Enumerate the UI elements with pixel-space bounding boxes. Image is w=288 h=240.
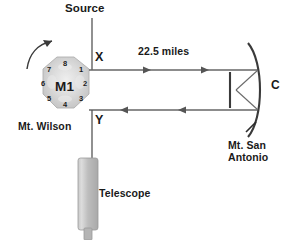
octagon-face-2: 2 [80, 80, 90, 88]
octagon-face-8: 8 [60, 60, 70, 68]
michelson-experiment-diagram: Source 22.5 miles X Y C M1 Mt. Wilson Mt… [0, 0, 288, 240]
telescope-icon [78, 158, 98, 240]
distance-label: 22.5 miles [138, 46, 189, 58]
arrowhead-icon [120, 107, 128, 114]
converging-rays [236, 70, 258, 110]
source-label: Source [65, 2, 105, 15]
arrowhead-icon [201, 67, 209, 74]
octagon-face-4: 4 [60, 101, 70, 109]
mirror-c-label: C [271, 79, 280, 92]
returning-beam [89, 107, 258, 114]
point-y-label: Y [95, 113, 103, 127]
outgoing-beam [89, 67, 258, 74]
rotating-mirror-label: M1 [55, 79, 74, 94]
mt-san-antonio-line2: Antonio [228, 152, 268, 164]
point-x-label: X [95, 50, 103, 64]
octagon-face-6: 6 [38, 80, 48, 88]
arrowhead-icon [143, 67, 151, 74]
mt-wilson-label: Mt. Wilson [18, 121, 71, 133]
telescope-label: Telescope [99, 188, 150, 200]
arrowhead-icon [178, 107, 186, 114]
octagon-face-1: 1 [76, 66, 86, 74]
mt-san-antonio-label: Mt. San Antonio [228, 140, 268, 164]
mt-san-antonio-line1: Mt. San [228, 140, 268, 152]
octagon-face-5: 5 [44, 95, 54, 103]
octagon-face-3: 3 [76, 95, 86, 103]
octagon-face-7: 7 [44, 66, 54, 74]
